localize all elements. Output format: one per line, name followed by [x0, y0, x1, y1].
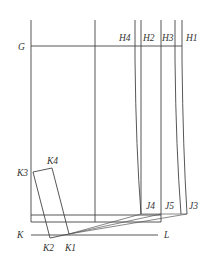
h4-curve	[135, 20, 141, 214]
label-h1: H1	[185, 33, 198, 43]
k1-j3-line	[69, 214, 187, 234]
construction-diagram: G H4 H2 H3 H1 J4 J5 J3 K3 K4 K L K2 K1	[0, 0, 213, 268]
label-h4: H4	[118, 33, 131, 43]
k1-j5-line	[69, 214, 161, 234]
label-l: L	[163, 230, 169, 240]
k1-j4-line	[69, 214, 141, 234]
h3-curve	[175, 20, 181, 214]
h1-curve	[182, 20, 187, 214]
label-j5: J5	[165, 201, 174, 211]
label-h3: H3	[161, 33, 174, 43]
label-j3: J3	[189, 201, 198, 211]
label-g: G	[18, 42, 25, 52]
label-k2: K2	[42, 243, 54, 253]
label-j4: J4	[146, 201, 155, 211]
label-k3: K3	[16, 168, 28, 178]
label-k: K	[16, 230, 24, 240]
label-h2: H2	[142, 33, 155, 43]
label-k4: K4	[46, 156, 58, 166]
k-rectangle	[33, 168, 69, 238]
label-k1: K1	[64, 243, 76, 253]
